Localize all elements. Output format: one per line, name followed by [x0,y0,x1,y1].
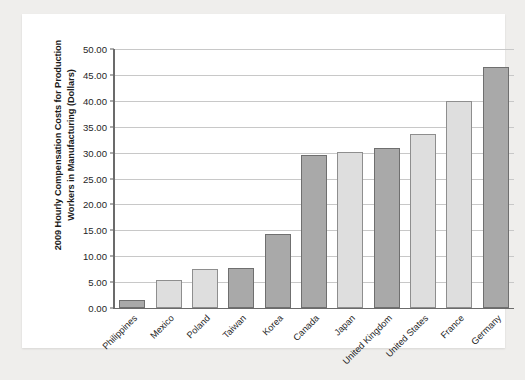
x-axis-line [113,308,514,309]
bar-germany[interactable] [483,67,509,308]
bar-philippines[interactable] [119,300,145,308]
bar-france[interactable] [446,101,472,308]
bar-japan[interactable] [337,152,363,308]
y-axis-line [113,49,115,308]
plot-area: 50.0045.0040.0035.0030.0025.0020.0015.00… [114,49,514,308]
y-axis-tick-label: 15.00 [83,225,107,236]
y-axis-title-line-1: 2009 Hourly Compensation Costs for Produ… [52,10,65,280]
bar-korea[interactable] [265,234,291,308]
chart-panel: 2009 Hourly Compensation Costs for Produ… [22,14,505,348]
bar-mexico[interactable] [156,280,182,308]
y-axis-tick-label: 5.00 [88,277,107,288]
y-axis-tick-label: 50.00 [83,44,107,55]
y-axis-tick-label: 35.00 [83,121,107,132]
y-axis-tick-label: 25.00 [83,173,107,184]
y-axis-tick-label: 45.00 [83,69,107,80]
bar-taiwan[interactable] [228,268,254,308]
y-axis-tick-label: 20.00 [83,199,107,210]
bar-united-states[interactable] [410,134,436,308]
bar-canada[interactable] [301,155,327,308]
gridline [114,49,514,50]
y-axis-title: 2009 Hourly Compensation Costs for Produ… [52,10,78,280]
y-axis-tick-label: 40.00 [83,95,107,106]
gridline [114,75,514,76]
y-axis-tick-label: 10.00 [83,251,107,262]
chart-page: 2009 Hourly Compensation Costs for Produ… [0,0,525,380]
bar-poland[interactable] [192,269,218,308]
y-axis-tick-label: 30.00 [83,147,107,158]
y-axis-tick-label: 0.00 [88,303,107,314]
y-axis-title-line-2: Workers in Manufacturing (Dollars) [65,10,78,280]
bar-united-kingdom[interactable] [374,148,400,308]
